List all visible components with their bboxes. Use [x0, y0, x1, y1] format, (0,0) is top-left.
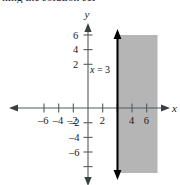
x-tick-label-2: 2 [100, 115, 105, 126]
shaded-solution-region [118, 35, 158, 173]
y-tick-label-6: 6 [73, 30, 78, 41]
annotation-rest: = 3 [94, 64, 110, 75]
y-tick-label--2: –2 [68, 117, 80, 128]
x-tick-label-4: 4 [129, 115, 135, 126]
y-tick-label--4: –4 [68, 132, 80, 143]
boundary-bottom-arrow-icon [114, 170, 122, 180]
y-tick-label--6: –6 [68, 147, 80, 158]
x-tick-label--6: –6 [37, 115, 49, 126]
y-axis-label: y [84, 8, 90, 20]
x-axis-label: x [171, 102, 177, 114]
x-axis-left-arrow-icon [9, 104, 18, 111]
y-tick-label-2: 2 [73, 59, 78, 70]
x-tick-label-6: 6 [144, 115, 149, 126]
y-axis-bottom-arrow-icon [84, 177, 91, 185]
annotation-x-equals-3: x = 3 [89, 64, 110, 75]
x-axis-right-arrow-icon [161, 104, 170, 111]
y-tick-label-4: 4 [73, 44, 79, 55]
x-tick-label--4: –4 [52, 115, 64, 126]
boundary-top-arrow-icon [114, 29, 122, 39]
coordinate-plane: y x x = 3 –6 –4 –2 2 4 6 6 4 2 –2 –4 –6 [0, 0, 180, 185]
graph-figure: ning the solution set [0, 0, 180, 185]
y-axis-top-arrow-icon [84, 23, 91, 32]
